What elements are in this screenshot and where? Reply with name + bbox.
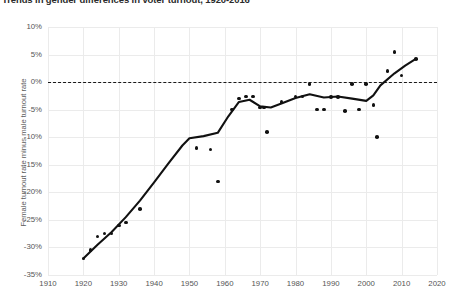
trend-line	[48, 27, 437, 275]
gridline-horizontal	[48, 275, 437, 276]
y-tick-label: -35%	[0, 270, 42, 279]
data-point	[375, 135, 379, 139]
data-point	[262, 106, 266, 110]
y-tick-label: -30%	[0, 242, 42, 251]
y-tick-label: -15%	[0, 160, 42, 169]
y-tick-label: -20%	[0, 187, 42, 196]
data-point	[343, 109, 347, 113]
y-tick-label: -10%	[0, 132, 42, 141]
y-tick-label: 5%	[0, 50, 42, 59]
x-tick-label: 1950	[169, 279, 209, 288]
y-tick-label: 0%	[0, 77, 42, 86]
data-point	[414, 57, 418, 61]
data-point	[393, 50, 397, 54]
x-tick-label: 1930	[99, 279, 139, 288]
data-point	[329, 95, 333, 99]
y-tick-label: -25%	[0, 215, 42, 224]
x-tick-label: 2010	[382, 279, 422, 288]
y-axis-label: Female turnout rate minus male turnout r…	[19, 38, 28, 268]
data-point	[350, 82, 354, 86]
data-point	[251, 95, 255, 99]
chart-title: Trends in gender differences in voter tu…	[2, 0, 442, 5]
data-point	[265, 130, 269, 134]
y-tick-label: -5%	[0, 105, 42, 114]
x-tick-label: 1990	[311, 279, 351, 288]
data-point	[372, 103, 376, 107]
x-tick-label: 2020	[417, 279, 450, 288]
x-tick-label: 1920	[63, 279, 103, 288]
y-tick-label: 10%	[0, 22, 42, 31]
gridline-vertical	[437, 27, 438, 275]
data-point	[124, 221, 128, 225]
x-tick-label: 1970	[240, 279, 280, 288]
data-point	[280, 100, 284, 104]
x-tick-label: 2000	[346, 279, 386, 288]
data-point	[117, 224, 121, 228]
data-point	[138, 207, 142, 211]
data-point	[216, 180, 220, 184]
data-point	[364, 82, 368, 86]
data-point	[386, 69, 390, 73]
data-point	[244, 95, 248, 99]
data-point	[336, 95, 340, 99]
x-tick-label: 1980	[276, 279, 316, 288]
data-point	[315, 108, 319, 112]
plot-area	[48, 27, 437, 275]
x-tick-label: 1940	[134, 279, 174, 288]
x-tick-label: 1910	[28, 279, 68, 288]
x-tick-label: 1960	[205, 279, 245, 288]
